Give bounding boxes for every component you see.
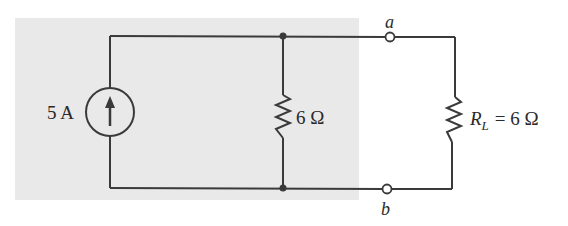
circuit-diagram: 5 A 6 Ω RL= 6 Ω a b	[0, 0, 568, 226]
current-source-label: 5 A	[47, 102, 74, 123]
load-resistor-symbol: R	[469, 108, 482, 129]
terminal-a	[386, 33, 395, 42]
shunt-resistor-label: 6 Ω	[296, 107, 324, 128]
wire-bottom-rail	[110, 188, 384, 189]
wire-top-rail	[110, 36, 387, 37]
terminal-b	[383, 185, 392, 194]
load-resistor-zigzag	[447, 97, 461, 142]
junction-node-bottom	[280, 185, 287, 192]
terminal-b-label: b	[381, 199, 390, 219]
load-resistor-label: RL= 6 Ω	[469, 108, 539, 133]
terminal-a-label: a	[385, 12, 394, 32]
junction-node-top	[280, 33, 287, 40]
load-resistor-value: = 6 Ω	[495, 108, 539, 129]
load-resistor-subscript: L	[481, 118, 489, 133]
